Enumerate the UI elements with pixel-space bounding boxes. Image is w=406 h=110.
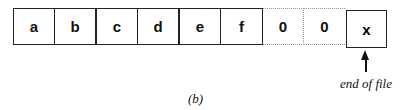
cell-label: x — [362, 21, 370, 38]
cell-e: e — [179, 8, 221, 45]
cell-label: 0 — [279, 18, 287, 35]
cell-label: d — [153, 18, 162, 35]
figure-caption: (b) — [188, 91, 203, 107]
cell-a: a — [13, 8, 55, 45]
cell-label: e — [196, 18, 204, 35]
cell-label: f — [239, 18, 244, 35]
eof-cell: x — [346, 10, 387, 48]
cell-d: d — [137, 8, 179, 45]
cell-f: f — [220, 8, 263, 45]
cell-zero-2: 0 — [304, 8, 345, 45]
cell-label: a — [30, 18, 38, 35]
cell-zero-1: 0 — [263, 8, 304, 45]
eof-label: end of file — [340, 76, 392, 92]
cell-b: b — [54, 8, 96, 45]
cell-label: c — [113, 18, 121, 35]
cell-label: b — [70, 18, 79, 35]
cell-label: 0 — [320, 18, 328, 35]
cell-c: c — [96, 8, 138, 45]
